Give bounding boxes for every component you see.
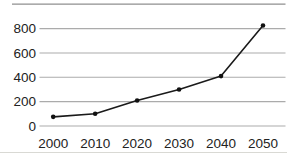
y-tick-label: 200 (13, 94, 36, 109)
data-point-marker (51, 115, 56, 120)
x-tick-label: 2030 (164, 136, 194, 151)
data-point-marker (177, 87, 182, 92)
data-point-marker (219, 74, 224, 79)
x-tick-label: 2010 (80, 136, 110, 151)
x-tick-label: 2040 (206, 136, 236, 151)
line-chart: 0200400600800200020102020203020402050 (0, 0, 287, 155)
data-point-marker (135, 98, 140, 103)
y-tick-label: 0 (28, 119, 36, 134)
chart-figure: 0200400600800200020102020203020402050 (0, 0, 287, 155)
y-tick-label: 400 (13, 70, 36, 85)
x-tick-label: 2050 (248, 136, 278, 151)
x-tick-label: 2020 (122, 136, 152, 151)
y-tick-label: 800 (13, 21, 36, 36)
data-point-marker (93, 112, 98, 117)
x-tick-label: 2000 (38, 136, 68, 151)
data-point-marker (261, 23, 266, 28)
y-tick-label: 600 (13, 46, 36, 61)
